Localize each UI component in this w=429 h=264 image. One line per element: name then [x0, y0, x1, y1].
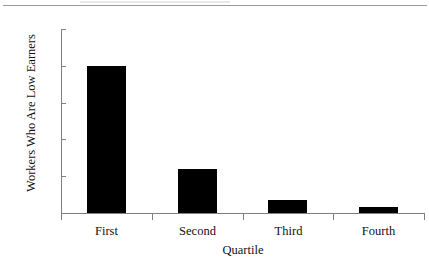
x-axis-tick-label: Third: [243, 224, 334, 239]
bar-third: [268, 200, 307, 213]
bar-fourth: [359, 207, 398, 213]
chart-figure: Workers Who Are Low Earners 00.050.10.15…: [0, 0, 429, 264]
x-axis-title: Quartile: [61, 243, 425, 258]
x-axis-tick-mark: [243, 214, 244, 220]
bar-second: [178, 169, 217, 213]
x-axis-tick-mark: [61, 214, 62, 220]
top-horizontal-rule: [3, 5, 427, 6]
y-axis-tick-mark: [61, 29, 66, 30]
x-axis-tick-mark: [333, 214, 334, 220]
y-axis-tick-mark: [61, 103, 66, 104]
y-axis-tick-mark: [61, 139, 66, 140]
x-axis-tick-mark: [152, 214, 153, 220]
bar-first: [87, 66, 126, 213]
x-axis-tick-label: Fourth: [333, 224, 424, 239]
y-axis-tick-labels: 00.050.10.150.20.25: [0, 0, 54, 264]
x-axis-tick-mark: [424, 214, 425, 220]
y-axis-tick-mark: [61, 66, 66, 67]
y-axis-tick-mark: [61, 176, 66, 177]
x-axis-tick-label: First: [61, 224, 152, 239]
x-axis-tick-label: Second: [152, 224, 243, 239]
bars-layer: [61, 29, 425, 213]
top-rule-ghost: [80, 1, 230, 3]
